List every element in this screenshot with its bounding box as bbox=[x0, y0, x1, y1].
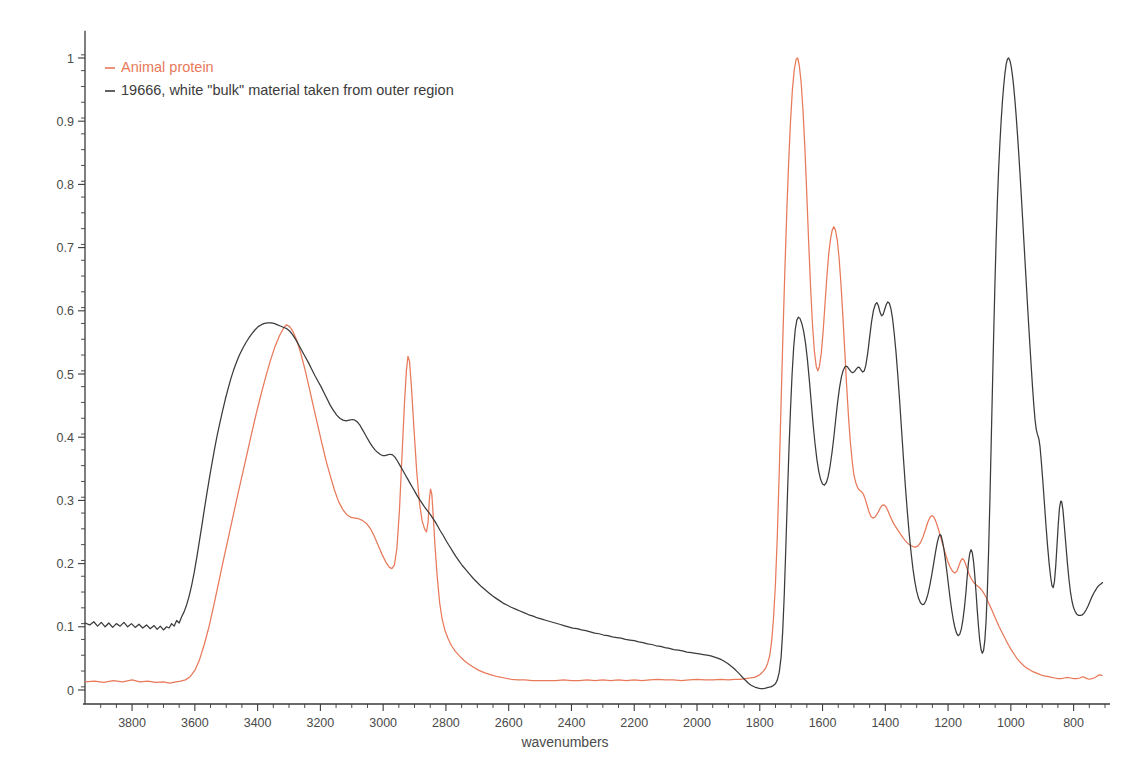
y-tick-label: 0.7 bbox=[57, 241, 74, 255]
tick-labels-group: 00.10.20.30.40.50.60.70.80.9138003600340… bbox=[57, 52, 1084, 731]
y-tick-label: 0.9 bbox=[57, 115, 74, 129]
y-tick-label: 0.8 bbox=[57, 178, 74, 192]
trace-group bbox=[85, 58, 1102, 689]
x-tick-label: 1600 bbox=[809, 716, 837, 730]
legend-label-1: 19666, white "bulk" material taken from … bbox=[121, 82, 454, 98]
y-tick-label: 1 bbox=[67, 52, 74, 66]
figure-root: 00.10.20.30.40.50.60.70.80.9138003600340… bbox=[0, 0, 1133, 783]
x-tick-label: 2000 bbox=[683, 716, 711, 730]
y-tick-label: 0.1 bbox=[57, 620, 74, 634]
x-tick-label: 1200 bbox=[934, 716, 962, 730]
legend-label-0: Animal protein bbox=[121, 59, 214, 75]
x-tick-label: 2600 bbox=[495, 716, 523, 730]
x-tick-label: 1800 bbox=[746, 716, 774, 730]
legend: Animal protein19666, white "bulk" materi… bbox=[105, 59, 454, 98]
y-tick-label: 0.4 bbox=[57, 431, 74, 445]
x-tick-label: 2800 bbox=[432, 716, 460, 730]
x-tick-label: 3800 bbox=[118, 716, 146, 730]
x-tick-label: 3600 bbox=[181, 716, 209, 730]
x-tick-label: 2400 bbox=[558, 716, 586, 730]
x-tick-label: 1000 bbox=[997, 716, 1025, 730]
x-axis-title: wavenumbers bbox=[520, 734, 608, 750]
y-tick-label: 0.5 bbox=[57, 368, 74, 382]
y-tick-label: 0.6 bbox=[57, 304, 74, 318]
x-tick-label: 1400 bbox=[871, 716, 899, 730]
y-tick-label: 0 bbox=[67, 684, 74, 698]
x-tick-label: 800 bbox=[1063, 716, 1084, 730]
x-tick-label: 2200 bbox=[620, 716, 648, 730]
x-tick-label: 3400 bbox=[244, 716, 272, 730]
spectrum-plot: 00.10.20.30.40.50.60.70.80.9138003600340… bbox=[0, 0, 1133, 783]
spectrum-trace-1 bbox=[85, 58, 1102, 689]
y-tick-label: 0.3 bbox=[57, 494, 74, 508]
x-tick-label: 3000 bbox=[369, 716, 397, 730]
x-tick-label: 3200 bbox=[306, 716, 334, 730]
y-tick-label: 0.2 bbox=[57, 557, 74, 571]
